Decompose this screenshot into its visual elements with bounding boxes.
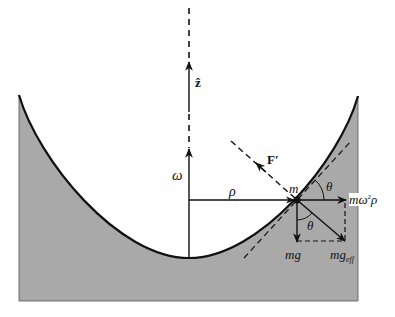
paraboloid-force-diagram: ẑ ω ρ F′ m θ θ mω2ρ mg mgeff: [0, 0, 395, 317]
centrifugal-rho: ρ: [371, 192, 377, 207]
diagram-canvas: [0, 0, 395, 317]
z-hat-label: ẑ: [195, 76, 201, 89]
centrifugal-omega: ω: [358, 192, 367, 207]
effective-weight-main: mg: [330, 247, 346, 262]
theta-upper-label: θ: [326, 180, 332, 193]
effective-weight-label: mgeff: [330, 248, 354, 264]
F-prime-label: F′: [267, 153, 279, 166]
centrifugal-label: mω2ρ: [349, 193, 377, 206]
centrifugal-m: m: [349, 192, 358, 207]
rho-label: ρ: [229, 185, 236, 199]
theta-lower-label: θ: [307, 219, 313, 232]
weight-label: mg: [285, 248, 301, 261]
mass-label: m: [289, 182, 298, 195]
mass-point: [293, 196, 300, 203]
omega-label: ω: [172, 168, 183, 183]
F-prime-arrow: [256, 163, 266, 172]
effective-weight-sub: eff: [346, 255, 354, 264]
